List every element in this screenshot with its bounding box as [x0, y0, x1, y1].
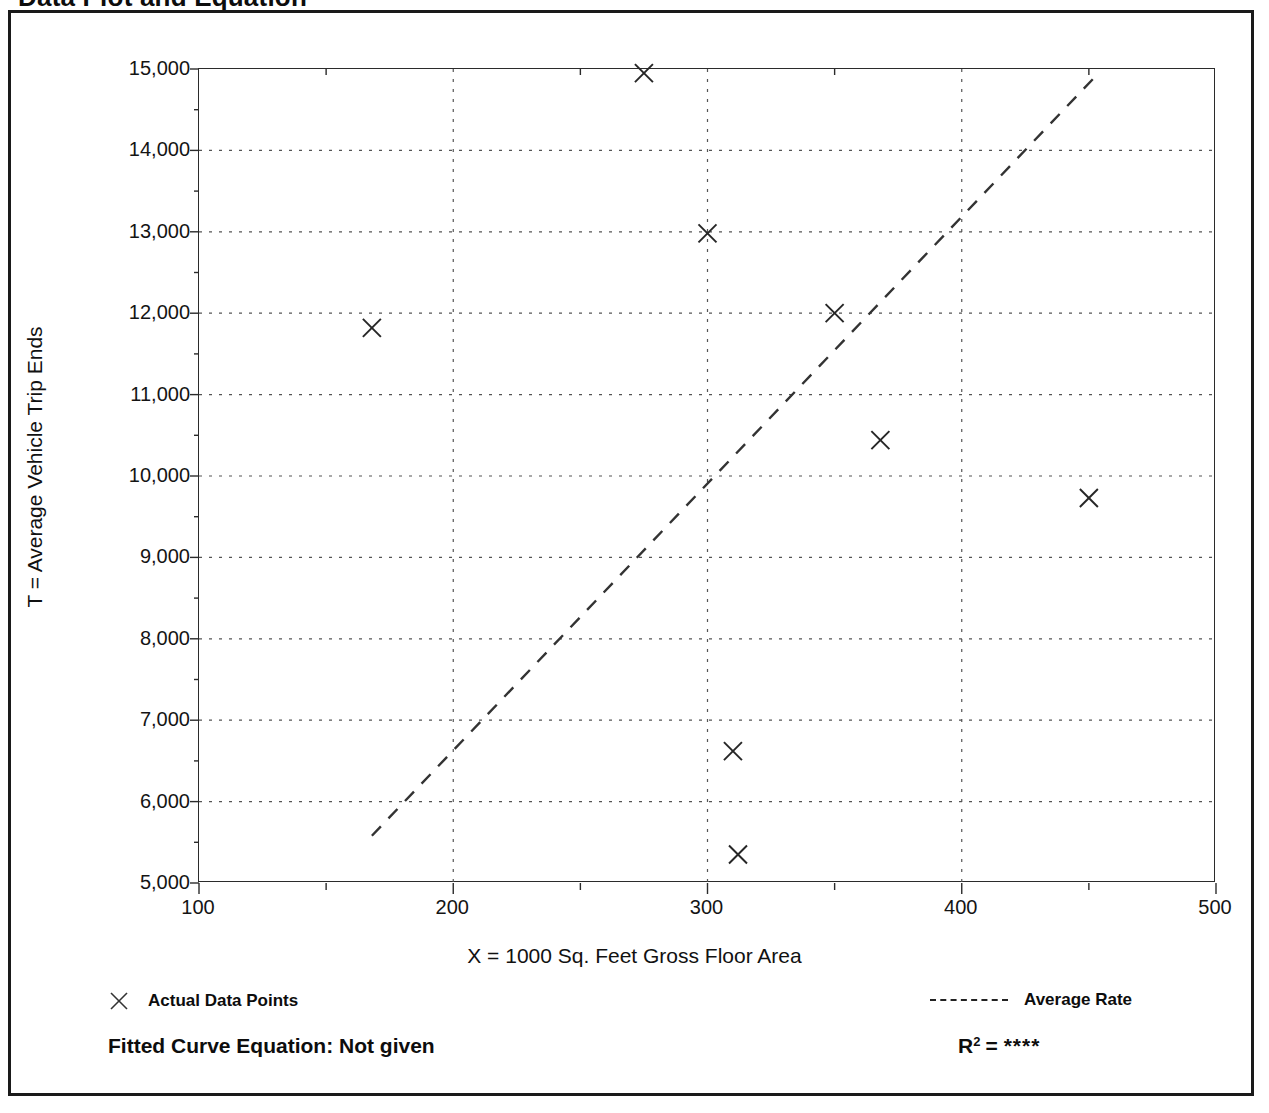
x-tick-label: 300	[690, 896, 723, 919]
legend-item-average-rate: Average Rate	[930, 990, 1132, 1010]
x-axis-tick-labels: 100200300400500	[0, 896, 1269, 926]
y-tick-label: 8,000	[140, 626, 190, 649]
y-tick-label: 7,000	[140, 708, 190, 731]
x-tick-label: 200	[436, 896, 469, 919]
legend-label-actual-data-points: Actual Data Points	[148, 991, 298, 1011]
y-tick-label: 11,000	[130, 382, 190, 405]
y-tick-label: 6,000	[140, 789, 190, 812]
legend-item-actual-data-points: Actual Data Points	[108, 990, 298, 1012]
y-tick-label: 13,000	[129, 219, 190, 242]
r-squared-value: ****	[1004, 1034, 1041, 1058]
x-tick-label: 400	[944, 896, 977, 919]
x-marker-icon	[108, 990, 130, 1012]
x-tick-label: 500	[1198, 896, 1231, 919]
y-tick-label: 10,000	[129, 464, 190, 487]
y-axis-title: T = Average Vehicle Trip Ends	[23, 187, 47, 747]
legend-label-average-rate: Average Rate	[1024, 990, 1132, 1010]
equation-row: Fitted Curve Equation: Not given R2 = **…	[0, 1034, 1269, 1074]
y-tick-label: 9,000	[140, 545, 190, 568]
r-squared-equals: =	[985, 1034, 997, 1058]
r-squared-symbol: R	[958, 1034, 973, 1058]
plot-area	[198, 68, 1215, 882]
axis-ticks	[199, 69, 1216, 883]
legend: Actual Data Points Average Rate	[0, 990, 1269, 1024]
x-tick-label: 100	[181, 896, 214, 919]
x-axis-title: X = 1000 Sq. Feet Gross Floor Area	[0, 944, 1269, 968]
y-tick-label: 12,000	[129, 301, 190, 324]
dashed-line-icon	[930, 999, 1008, 1001]
r-squared-block: R2 = ****	[958, 1034, 1040, 1058]
y-tick-label: 5,000	[140, 871, 190, 894]
fitted-curve-equation: Fitted Curve Equation: Not given	[108, 1034, 435, 1058]
y-axis-tick-labels: 5,0006,0007,0008,0009,00010,00011,00012,…	[108, 68, 190, 882]
chart-figure: 5,0006,0007,0008,0009,00010,00011,00012,…	[0, 0, 1269, 1113]
r-squared-exponent: 2	[973, 1034, 980, 1049]
y-tick-label: 14,000	[129, 138, 190, 161]
y-tick-label: 15,000	[129, 57, 190, 80]
